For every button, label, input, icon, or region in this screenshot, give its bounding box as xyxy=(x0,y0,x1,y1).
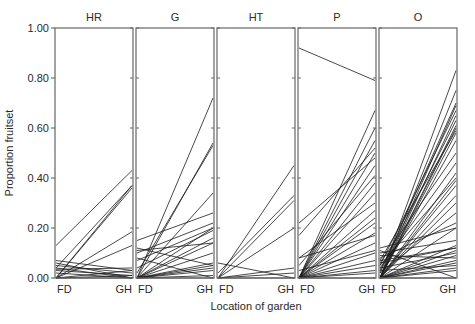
panel-p: PFDGH xyxy=(298,11,376,295)
y-tick-label: 0.80 xyxy=(28,72,49,84)
data-line xyxy=(56,171,132,246)
data-line xyxy=(299,166,375,279)
data-line xyxy=(137,258,213,278)
y-tick-label: 0.20 xyxy=(28,222,49,234)
y-axis-label: Proportion fruitset xyxy=(3,110,15,197)
x-tick-fd: FD xyxy=(57,283,72,295)
panel-title: HR xyxy=(86,11,102,23)
data-line xyxy=(218,268,294,278)
panel-title: G xyxy=(171,11,180,23)
data-line xyxy=(299,223,375,278)
panel-title: HT xyxy=(249,11,264,23)
y-axis: 0.000.200.400.600.801.00 xyxy=(28,22,55,284)
panel-frame xyxy=(55,28,133,278)
panel-title: O xyxy=(414,11,423,23)
panel-title: P xyxy=(333,11,340,23)
x-axis-label: Location of garden xyxy=(210,300,301,312)
data-line xyxy=(299,158,375,223)
data-line xyxy=(218,201,294,279)
y-tick-label: 0.40 xyxy=(28,172,49,184)
data-line xyxy=(299,153,375,278)
x-tick-fd: FD xyxy=(300,283,315,295)
data-line xyxy=(299,203,375,258)
panel-g: GFDGH xyxy=(136,11,214,295)
fruitset-chart: 0.000.200.400.600.801.00 HRFDGHGFDGHHTFD… xyxy=(0,0,475,324)
data-line xyxy=(137,146,213,274)
data-line xyxy=(56,186,132,269)
panel-frame xyxy=(217,28,295,278)
panel-o: OFDGH xyxy=(379,11,457,295)
data-line xyxy=(56,188,132,278)
data-line xyxy=(380,163,456,268)
x-tick-fd: FD xyxy=(381,283,396,295)
x-tick-gh: GH xyxy=(116,283,133,295)
panel-frame xyxy=(136,28,214,278)
y-tick-label: 0.00 xyxy=(28,272,49,284)
panel-ht: HTFDGH xyxy=(217,11,295,295)
x-tick-fd: FD xyxy=(219,283,234,295)
data-line xyxy=(380,116,456,279)
x-tick-fd: FD xyxy=(138,283,153,295)
data-line xyxy=(299,236,375,259)
y-tick-label: 1.00 xyxy=(28,22,49,34)
panel-hr: HRFDGH xyxy=(55,11,133,295)
x-tick-gh: GH xyxy=(359,283,376,295)
x-tick-gh: GH xyxy=(278,283,295,295)
data-line xyxy=(299,111,375,279)
panels: HRFDGHGFDGHHTFDGHPFDGHOFDGH xyxy=(55,11,457,295)
x-tick-gh: GH xyxy=(197,283,214,295)
data-line xyxy=(218,196,294,274)
x-tick-gh: GH xyxy=(440,283,457,295)
y-tick-label: 0.60 xyxy=(28,122,49,134)
data-line xyxy=(299,48,375,81)
panel-frame xyxy=(298,28,376,278)
data-line xyxy=(380,228,456,248)
